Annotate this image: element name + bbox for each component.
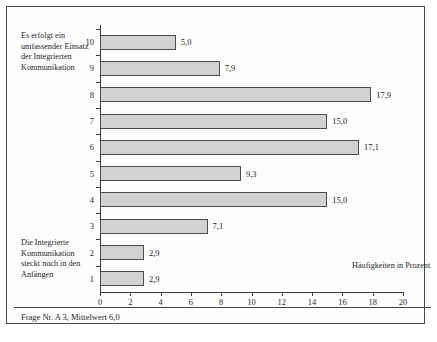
bar-8	[100, 87, 371, 102]
x-axis-tick-label-16: 16	[330, 297, 354, 307]
y-axis-tick	[96, 134, 100, 135]
y-axis-tick-label-2: 2	[76, 248, 94, 258]
x-axis-tick	[373, 292, 374, 296]
x-axis-tick	[282, 292, 283, 296]
x-axis-tick	[312, 292, 313, 296]
y-axis-tick-label-5: 5	[76, 169, 94, 179]
bar-1	[100, 271, 144, 286]
bar-row: 9,3	[100, 166, 403, 181]
y-axis-tick	[96, 29, 100, 30]
bar-3	[100, 219, 208, 234]
y-axis-tick-label-1: 1	[76, 274, 94, 284]
bar-value-label: 7,9	[225, 63, 236, 73]
bar-row: 2,9	[100, 245, 403, 260]
y-axis-tick-label-4: 4	[76, 195, 94, 205]
y-axis-tick	[96, 108, 100, 109]
y-axis-tick-label-3: 3	[76, 221, 94, 231]
bar-row: 17,9	[100, 87, 403, 102]
bar-row: 17,1	[100, 140, 403, 155]
footnote-divider	[14, 307, 431, 308]
bar-row: 15,0	[100, 192, 403, 207]
y-axis-tick-label-7: 7	[76, 116, 94, 126]
y-axis-tick	[96, 82, 100, 83]
x-axis-tick-label-6: 6	[179, 297, 203, 307]
x-axis-tick-label-12: 12	[270, 297, 294, 307]
bar-value-label: 5,0	[181, 37, 192, 47]
x-axis-tick	[221, 292, 222, 296]
x-axis-tick-label-8: 8	[209, 297, 233, 307]
bar-value-label: 7,1	[213, 221, 224, 231]
bar-7	[100, 114, 327, 129]
bar-value-label: 2,9	[149, 248, 160, 258]
x-axis-tick-label-10: 10	[240, 297, 264, 307]
y-axis-tick	[96, 266, 100, 267]
y-axis-tick	[96, 55, 100, 56]
bar-value-label: 17,1	[364, 142, 379, 152]
bar-row: 2,9	[100, 271, 403, 286]
bar-row: 7,9	[100, 61, 403, 76]
figure-frame: Es erfolgt ein umfassender Einsatz der I…	[6, 6, 425, 324]
y-axis-tick	[96, 161, 100, 162]
x-axis-tick	[100, 292, 101, 296]
axis-legend-label: Häufigkeiten in Prozent	[352, 261, 430, 272]
x-axis-tick-label-14: 14	[300, 297, 324, 307]
x-axis-tick	[161, 292, 162, 296]
bar-value-label: 9,3	[246, 169, 257, 179]
x-axis-tick	[252, 292, 253, 296]
bar-value-label: 2,9	[149, 274, 160, 284]
x-axis-tick	[342, 292, 343, 296]
bar-row: 15,0	[100, 114, 403, 129]
x-axis-tick	[191, 292, 192, 296]
bar-value-label: 17,9	[376, 90, 391, 100]
y-axis-tick-label-8: 8	[76, 90, 94, 100]
bar-row: 5,0	[100, 35, 403, 50]
x-axis-tick-label-2: 2	[118, 297, 142, 307]
x-axis-tick-label-20: 20	[391, 297, 415, 307]
bar-6	[100, 140, 359, 155]
bar-5	[100, 166, 241, 181]
x-axis-tick-label-18: 18	[361, 297, 385, 307]
y-axis-tick-label-10: 10	[76, 37, 94, 47]
x-axis-tick	[130, 292, 131, 296]
bar-2	[100, 245, 144, 260]
x-axis-tick	[403, 292, 404, 296]
y-axis-tick-label-6: 6	[76, 142, 94, 152]
y-axis-tick	[96, 187, 100, 188]
y-axis-tick-label-9: 9	[76, 63, 94, 73]
bar-row: 7,1	[100, 219, 403, 234]
x-axis-tick-label-4: 4	[149, 297, 173, 307]
bar-10	[100, 35, 176, 50]
figure-footnote: Frage Nr. A 3, Mittelwert 6,0	[21, 312, 120, 323]
y-axis-tick	[96, 213, 100, 214]
y-axis-tick	[96, 239, 100, 240]
bar-4	[100, 192, 327, 207]
bar-value-label: 15,0	[332, 116, 347, 126]
bar-9	[100, 61, 220, 76]
x-axis-tick-label-0: 0	[88, 297, 112, 307]
bar-value-label: 15,0	[332, 195, 347, 205]
